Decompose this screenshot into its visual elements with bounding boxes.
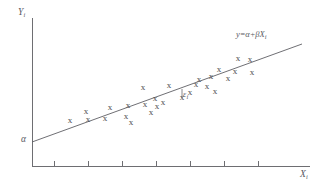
scatter-point-marker: x (86, 114, 91, 124)
scatter-point-marker: x (250, 67, 255, 77)
scatter-point-marker: x (108, 102, 113, 112)
intercept-alpha-text: α (21, 134, 26, 144)
x-axis-label-subscript: i (306, 173, 308, 180)
residual-epsilon-subscript: i (186, 93, 188, 100)
y-axis-label: Yi (18, 8, 25, 18)
regression-line (32, 44, 302, 142)
scatter-point-marker: x (209, 71, 214, 81)
regression-scatter-figure: xxxxxxxxxxxxxxxxxxxxxxxxxxxx Yi Xi α y=α… (0, 0, 324, 194)
plot-area: xxxxxxxxxxxxxxxxxxxxxxxxxxxx (0, 0, 324, 194)
scatter-point-marker: x (167, 80, 172, 90)
scatter-point-marker: x (143, 99, 148, 109)
scatter-points: xxxxxxxxxxxxxxxxxxxxxxxxxxxx (68, 53, 255, 127)
scatter-point-marker: x (141, 82, 146, 92)
scatter-point-marker: x (188, 87, 193, 97)
scatter-point-marker: x (236, 53, 241, 63)
scatter-point-marker: x (161, 97, 166, 107)
equation-subscript: i (265, 33, 267, 40)
x-axis-label-text: X (300, 169, 306, 179)
x-axis-label: Xi (300, 170, 308, 180)
scatter-point-marker: x (197, 74, 202, 84)
scatter-point-marker: x (217, 64, 222, 74)
scatter-point-marker: x (248, 54, 253, 64)
scatter-point-marker: x (205, 81, 210, 91)
x-axis-ticks (54, 161, 258, 166)
scatter-point-marker: x (103, 113, 108, 123)
scatter-point-marker: x (149, 107, 154, 117)
scatter-point-marker: x (126, 100, 131, 110)
regression-fit-line (32, 44, 302, 142)
scatter-point-marker: x (226, 73, 231, 83)
scatter-point-marker: x (129, 117, 134, 127)
scatter-point-marker: x (68, 115, 73, 125)
scatter-point-marker: x (155, 101, 160, 111)
scatter-point-marker: x (233, 66, 238, 76)
equation-body-text: =α+βX (240, 29, 265, 39)
regression-equation-label: y=α+βXi (236, 30, 266, 39)
scatter-point-marker: x (213, 86, 218, 96)
y-axis-label-text: Y (18, 7, 23, 17)
intercept-alpha-label: α (21, 135, 26, 145)
residual-epsilon-label: εi (183, 91, 188, 99)
